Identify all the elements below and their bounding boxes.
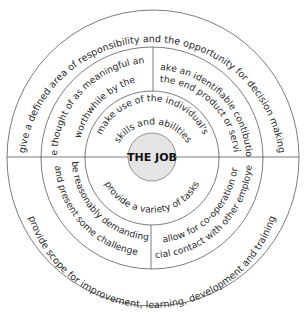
inner-bottom-label: provide a variety of tasks <box>103 179 201 215</box>
job-design-diagram: THE JOB give a defined area of responsib… <box>0 0 304 315</box>
outer-bottom-label: provide scope for improvement, learning,… <box>27 214 278 310</box>
inner-top-line1: make use of the individual's <box>94 92 212 136</box>
core-label: THE JOB <box>127 151 177 164</box>
